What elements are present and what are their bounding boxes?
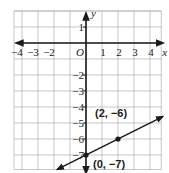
tick-labels: xyO−4−3−212341−2−3−4−5−6−7 xyxy=(11,7,167,161)
data-point xyxy=(115,136,120,141)
point-label: (0, −7) xyxy=(93,158,125,170)
x-axis-label: x xyxy=(161,46,167,58)
y-tick-label: −4 xyxy=(72,101,84,113)
x-tick-label: 4 xyxy=(148,46,154,58)
y-axis-label: y xyxy=(90,7,96,19)
x-tick-label: 1 xyxy=(100,46,106,58)
x-tick-label: −3 xyxy=(27,46,39,58)
origin-label: O xyxy=(76,46,84,58)
x-tick-label: 3 xyxy=(132,46,138,58)
y-tick-label: 1 xyxy=(79,21,85,33)
grid-border xyxy=(14,11,161,169)
point-label: (2, −6) xyxy=(95,107,127,119)
y-tick-label: −6 xyxy=(72,133,84,145)
y-tick-label: −3 xyxy=(72,85,84,97)
x-tick-label: −4 xyxy=(11,46,23,58)
x-tick-label: −2 xyxy=(43,46,55,58)
grid-lines xyxy=(14,11,161,169)
coordinate-graph: xyO−4−3−212341−2−3−4−5−6−7 (2, −6)(0, −7… xyxy=(0,0,169,173)
data-points: (2, −6)(0, −7) xyxy=(83,107,127,170)
x-tick-label: 2 xyxy=(116,46,122,58)
y-tick-label: −5 xyxy=(72,117,84,129)
y-tick-label: −2 xyxy=(72,69,84,81)
data-point xyxy=(83,152,88,157)
